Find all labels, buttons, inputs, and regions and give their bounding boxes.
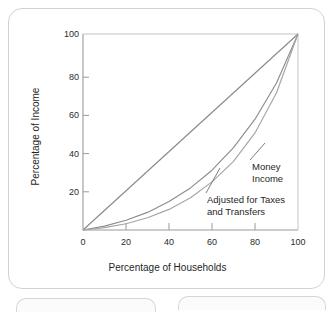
y-tick-label-100: 100	[55, 29, 79, 39]
x-axis-ticks	[126, 223, 255, 230]
x-tick-label-0: 0	[70, 237, 96, 247]
annotation-money-income: Money Income	[252, 161, 283, 184]
y-tick-label-40: 40	[55, 149, 79, 159]
x-axis-title: Percentage of Households	[9, 262, 326, 273]
y-axis-ticks	[83, 77, 89, 192]
x-tick-label-60: 60	[199, 237, 225, 247]
x-tick-label-100: 100	[285, 237, 311, 247]
adjacent-card-left	[16, 298, 156, 312]
leader-line-money-income	[250, 143, 265, 160]
figure-card: 100 80 60 40 20 0 20 40 60 80 100 Percen…	[8, 8, 325, 289]
y-tick-label-80: 80	[55, 72, 79, 82]
y-axis-title: Percentage of Income	[30, 77, 41, 197]
y-tick-label-60: 60	[55, 110, 79, 120]
adjacent-card-right	[178, 296, 326, 310]
x-tick-label-20: 20	[113, 237, 139, 247]
annotation-money-income-line2: Income	[252, 173, 283, 185]
leader-line-adjusted	[206, 168, 220, 193]
x-tick-label-40: 40	[156, 237, 182, 247]
annotation-adjusted-line2: and Transfers	[207, 206, 285, 218]
lorenz-curve-chart: 100 80 60 40 20 0 20 40 60 80 100 Percen…	[9, 9, 326, 290]
annotation-money-income-line1: Money	[252, 161, 283, 173]
annotation-adjusted-for-taxes-and-transfers: Adjusted for Taxes and Transfers	[207, 194, 285, 217]
annotation-adjusted-line1: Adjusted for Taxes	[207, 194, 285, 206]
y-tick-label-20: 20	[55, 187, 79, 197]
x-tick-label-80: 80	[242, 237, 268, 247]
